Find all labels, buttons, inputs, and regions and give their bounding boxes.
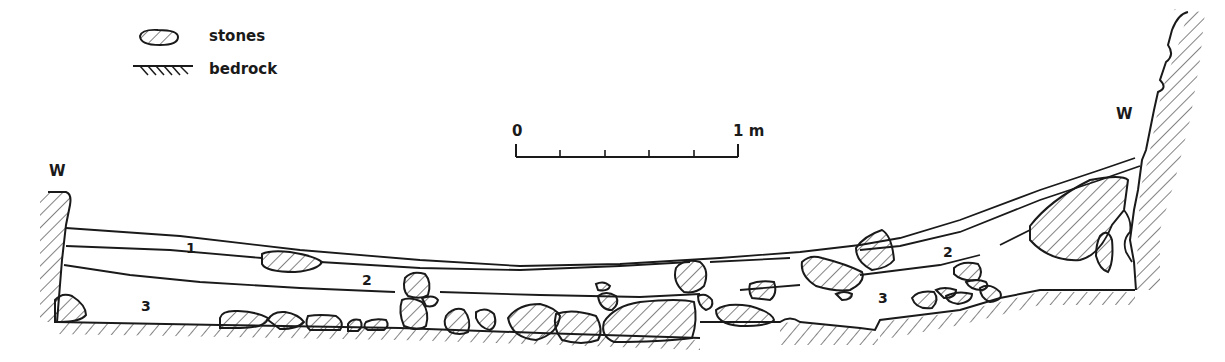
scale-end-label: 1 m — [733, 122, 764, 140]
stone — [404, 273, 429, 298]
layer-label-1: 1 — [186, 240, 196, 256]
stone — [912, 292, 937, 309]
layer-label-3-left: 3 — [141, 298, 151, 314]
legend-stones-label: stones — [209, 27, 265, 45]
stone — [596, 282, 610, 290]
stone — [802, 257, 863, 291]
stone — [55, 295, 86, 322]
stone — [555, 311, 601, 343]
stone — [954, 263, 981, 281]
stone — [675, 261, 706, 293]
stone — [716, 305, 774, 326]
stone — [476, 309, 495, 330]
stone — [598, 293, 617, 310]
scale-bar — [516, 144, 738, 157]
stone — [445, 309, 470, 334]
stone — [348, 320, 362, 332]
right-wall — [1130, 9, 1205, 290]
scale-start-label: 0 — [512, 122, 522, 140]
layer-label-3-right: 3 — [878, 290, 888, 306]
right-wall-label: W — [1116, 105, 1133, 123]
legend-bedrock-icon — [133, 66, 193, 75]
stone — [220, 311, 268, 328]
legend-stone-icon — [140, 30, 178, 45]
stone — [306, 315, 341, 330]
stone — [856, 230, 894, 270]
stone — [262, 251, 322, 272]
section-drawing — [0, 0, 1225, 362]
stone — [400, 298, 427, 329]
stone — [1096, 233, 1113, 272]
stone — [749, 281, 775, 300]
stone — [698, 295, 712, 310]
legend-bedrock-label: bedrock — [209, 60, 277, 78]
stone — [364, 319, 387, 330]
left-wall-label: W — [49, 162, 66, 180]
stone — [603, 300, 695, 342]
stone — [836, 292, 852, 300]
stone — [980, 286, 1001, 302]
stone — [946, 292, 972, 304]
layer-label-2-right: 2 — [943, 244, 953, 260]
layer-label-2-left: 2 — [362, 272, 372, 288]
